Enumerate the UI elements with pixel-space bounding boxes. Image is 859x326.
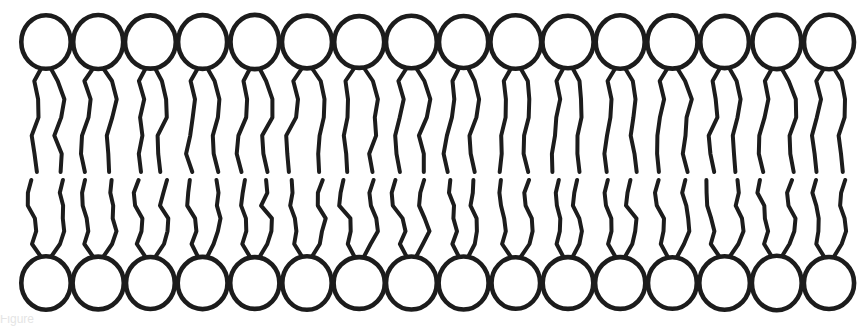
lipid-head-group — [178, 15, 227, 69]
lipid-head-group — [648, 257, 697, 309]
lipid-head-group — [334, 257, 385, 309]
lipid-head-group — [73, 15, 123, 69]
lipid-head-group — [386, 257, 437, 310]
lipid-head-group — [542, 16, 593, 69]
lipid-head-group — [126, 257, 175, 309]
lipid-head-group — [125, 15, 176, 68]
lipid-head-group — [230, 257, 279, 309]
lipid-head-group — [21, 15, 70, 69]
lipid-head-group — [647, 15, 697, 68]
lipid-head-group — [804, 257, 854, 309]
lipid-head-group — [595, 257, 645, 309]
lipid-head-group — [439, 16, 488, 68]
lipid-head-group — [752, 15, 801, 69]
lipid-head-group — [21, 256, 70, 309]
lipid-head-group — [439, 257, 489, 310]
lipid-head-group — [282, 16, 332, 69]
lipid-head-group — [699, 256, 750, 309]
lipid-head-group — [700, 16, 749, 68]
lipid-head-group — [282, 256, 331, 310]
lipid-head-group — [386, 16, 437, 69]
lipid-head-group — [804, 15, 854, 69]
lipid-head-group — [490, 15, 541, 69]
phospholipid-bilayer-figure: Figure — [0, 0, 859, 326]
lipid-head-group — [543, 257, 594, 309]
lipid-head-group — [231, 15, 280, 69]
lipid-head-group — [596, 15, 645, 68]
lipid-head-group — [73, 257, 124, 310]
lipid-head-group — [492, 257, 541, 309]
lipid-head-group — [752, 256, 802, 310]
lipid-head-group — [334, 16, 384, 68]
lipid-head-group — [178, 257, 228, 309]
bilayer-diagram — [0, 0, 859, 326]
